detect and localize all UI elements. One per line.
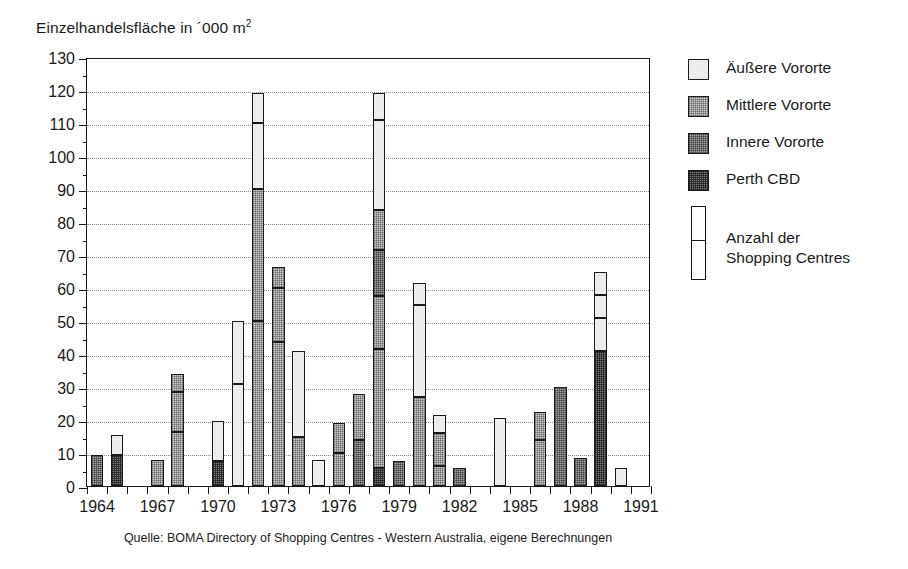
x-axis-tick [651, 486, 652, 494]
bar-segment [373, 250, 385, 296]
bar-segment [232, 321, 244, 384]
y-axis-tick-label: 100 [33, 149, 75, 167]
bar-segment [292, 351, 304, 437]
bar-segment [212, 421, 224, 462]
x-axis-tick-label: 1985 [502, 498, 538, 516]
x-axis-tick-label: 1967 [140, 498, 176, 516]
bar-segment [171, 432, 183, 486]
gridline [87, 323, 649, 324]
bar-segment [413, 305, 425, 397]
y-axis-tick [79, 224, 87, 225]
bar-segment [594, 295, 606, 318]
bar-1977 [353, 394, 365, 486]
bar-segment [373, 210, 385, 250]
bar-1978 [373, 93, 385, 486]
x-axis-tick [268, 486, 269, 494]
y-axis-minor-tick [83, 472, 87, 473]
bar-segment [373, 296, 385, 349]
bar-segment [615, 468, 627, 486]
x-axis-tick [127, 486, 128, 494]
y-axis-tick [79, 422, 87, 423]
bar-1982 [453, 468, 465, 486]
source-note: Quelle: BOMA Directory of Shopping Centr… [86, 531, 650, 545]
bar-segment [91, 455, 103, 486]
bar-1971 [232, 321, 244, 486]
legend-swatch-middle [688, 96, 709, 117]
bar-1986 [534, 412, 546, 486]
y-axis-tick-label: 0 [33, 479, 75, 497]
bar-segment [574, 458, 586, 486]
plot-area: 0102030405060708090100110120130196419671… [86, 58, 650, 487]
x-axis-tick [530, 486, 531, 494]
y-axis-tick-label: 130 [33, 50, 75, 68]
x-axis-tick [591, 486, 592, 494]
bar-1967 [151, 460, 163, 486]
bar-1974 [292, 351, 304, 486]
bar-1988 [574, 458, 586, 486]
gridline [87, 356, 649, 357]
y-axis-tick [79, 158, 87, 159]
x-axis-tick [550, 486, 551, 494]
bar-segment [333, 453, 345, 486]
y-axis-tick-label: 60 [33, 281, 75, 299]
bar-1973 [272, 267, 284, 486]
legend-item-middle: Mittlere Vororte [688, 95, 903, 117]
shopping-centres-count-swatch [691, 206, 706, 280]
x-axis-tick [147, 486, 148, 494]
bar-1979 [393, 461, 405, 486]
y-axis-minor-tick [83, 340, 87, 341]
bar-segment [373, 93, 385, 119]
y-axis-tick-label: 90 [33, 182, 75, 200]
bar-1975 [312, 460, 324, 486]
bar-1980 [413, 283, 425, 486]
y-axis-minor-tick [83, 241, 87, 242]
y-axis-tick [79, 125, 87, 126]
y-axis-tick [79, 389, 87, 390]
x-axis-tick [329, 486, 330, 494]
bar-segment [151, 460, 163, 486]
legend-label: Mittlere Vororte [726, 95, 831, 115]
gridline [87, 257, 649, 258]
bar-segment [272, 288, 284, 342]
bar-segment [333, 423, 345, 453]
y-axis-minor-tick [83, 307, 87, 308]
x-axis-tick [409, 486, 410, 494]
bar-segment [433, 433, 445, 466]
y-axis-tick [79, 191, 87, 192]
x-axis-tick [288, 486, 289, 494]
x-axis-tick-label: 1976 [321, 498, 357, 516]
y-axis-tick-label: 20 [33, 413, 75, 431]
y-axis-tick-label: 80 [33, 215, 75, 233]
legend-swatch-cbd [688, 170, 709, 191]
legend-items: Äußere VororteMittlere VororteInnere Vor… [688, 58, 903, 191]
x-axis-tick [450, 486, 451, 494]
legend-swatch-inner [688, 133, 709, 154]
y-axis-tick-label: 110 [33, 116, 75, 134]
y-axis-tick [79, 92, 87, 93]
bar-segment [373, 120, 385, 211]
bar-segment [111, 435, 123, 455]
gridline [87, 92, 649, 93]
bar-segment [212, 461, 224, 486]
bar-segment [171, 374, 183, 392]
bar-1964 [91, 455, 103, 486]
bar-1987 [554, 387, 566, 486]
bar-segment [272, 342, 284, 486]
x-axis-tick-label: 1991 [623, 498, 659, 516]
y-axis-title: Einzelhandelsfläche in ´000 m2 [36, 18, 251, 37]
bar-segment [534, 440, 546, 486]
y-axis-tick [79, 323, 87, 324]
bar-segment [252, 321, 264, 486]
bar-segment [594, 318, 606, 351]
x-axis-tick [490, 486, 491, 494]
x-axis-tick [309, 486, 310, 494]
count-swatch-divider [692, 240, 705, 241]
x-axis-tick-label: 1979 [381, 498, 417, 516]
y-axis-tick-label: 70 [33, 248, 75, 266]
chart-figure: Einzelhandelsfläche in ´000 m2 010203040… [0, 0, 908, 569]
x-axis-tick [611, 486, 612, 494]
x-axis-tick [470, 486, 471, 494]
y-axis-minor-tick [83, 274, 87, 275]
bar-segment [594, 272, 606, 295]
bar-1972 [252, 93, 264, 486]
